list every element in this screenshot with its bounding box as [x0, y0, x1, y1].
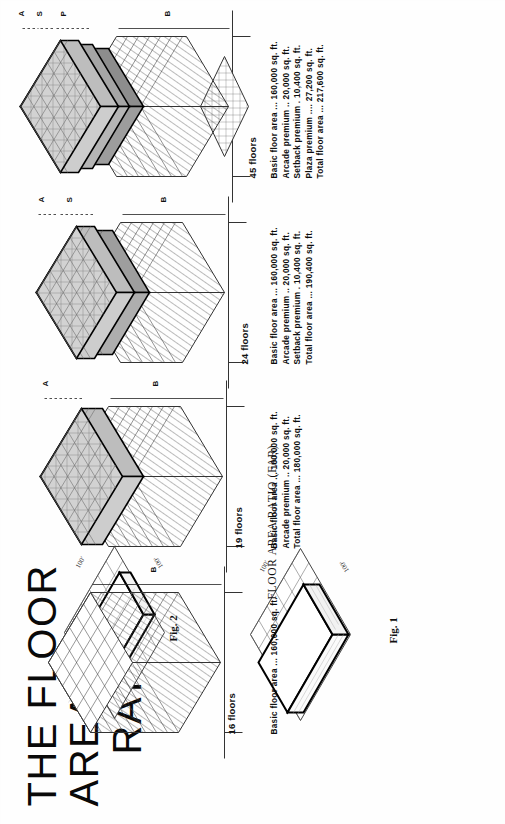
spec-dots: ....: [304, 103, 313, 113]
spec-list-16: Basic floor area ... 160,000 sq. ft.: [268, 597, 280, 734]
spec-label: Plaza premium: [304, 116, 313, 178]
spec-label: Arcade premium: [281, 479, 290, 548]
spec-label: Arcade premium: [281, 295, 290, 364]
spec-value: 180,000 sq. ft.: [292, 414, 301, 472]
spec-label: Setback premium: [292, 291, 301, 364]
building-45-drawing: [8, 6, 266, 206]
zone-tag-B-45: B: [162, 10, 171, 16]
spec-value: 160,000 sq. ft.: [269, 41, 278, 99]
spec-label: Total floor area: [315, 115, 324, 178]
spec-dots: ..: [281, 471, 290, 476]
figure-1-caption: Fig. 1: [386, 617, 398, 643]
spec-list-19: Basic floor area ... 160,000 sq. ft. Arc…: [268, 411, 303, 548]
spec-row: Total floor area ... 217,600 sq. ft.: [314, 41, 326, 178]
spec-row: Arcade premium .. 20,000 sq. ft.: [280, 227, 292, 364]
spec-dots: ..: [281, 287, 290, 292]
floors-label-24: 24 floors: [238, 323, 249, 364]
spec-list-45: Basic floor area ... 160,000 sq. ft. Arc…: [268, 41, 326, 178]
building-19-drawing: [22, 376, 262, 576]
spec-dots: ...: [304, 290, 313, 298]
spec-value: 217,600 sq. ft.: [315, 44, 324, 102]
spec-dots: .: [292, 286, 301, 289]
spec-dots: ...: [269, 287, 278, 295]
spec-row: Total floor area ... 190,400 sq. ft.: [303, 227, 315, 364]
spec-row: Setback premium . 10,400 sq. ft.: [291, 227, 303, 364]
spec-row: Basic floor area ... 160,000 sq. ft.: [268, 411, 280, 548]
spec-value: 160,000 sq. ft.: [269, 227, 278, 285]
spec-row: Basic floor area ... 160,000 sq. ft.: [268, 597, 280, 734]
spec-dots: ...: [269, 657, 278, 665]
spec-value: 160,000 sq. ft.: [269, 411, 278, 469]
spec-label: Basic floor area: [269, 482, 278, 548]
spec-dots: ..: [281, 101, 290, 106]
spec-dots: ...: [315, 104, 324, 112]
spec-label: Basic floor area: [269, 298, 278, 364]
spec-dots: .: [292, 100, 301, 103]
spec-label: Arcade premium: [281, 109, 290, 178]
building-16-drawing: [28, 562, 258, 762]
spec-value: 20,000 sq. ft.: [281, 416, 290, 469]
spec-value: 20,000 sq. ft.: [281, 232, 290, 285]
spec-row: Setback premium . 10,400 sq. ft.: [291, 41, 303, 178]
spec-label: Setback premium: [292, 105, 301, 178]
spec-value: 27,200 sq. ft.: [304, 47, 313, 100]
spec-label: Total floor area: [292, 485, 301, 548]
spec-label: Total floor area: [304, 301, 313, 364]
spec-label: Basic floor area: [269, 112, 278, 178]
spec-row: Total floor area ... 180,000 sq. ft.: [291, 411, 303, 548]
scanned-page: THE FLOOR AREA RATIO: [0, 0, 505, 824]
spec-row: Basic floor area ... 160,000 sq. ft.: [268, 41, 280, 178]
spec-row: Arcade premium .. 20,000 sq. ft.: [280, 411, 292, 548]
zone-tag-S-45: S: [34, 11, 43, 16]
zone-tag-A-45: A: [16, 10, 25, 16]
spec-value: 20,000 sq. ft.: [281, 46, 290, 99]
spec-row: Plaza premium .... 27,200 sq. ft.: [303, 41, 315, 178]
floors-label-45: 45 floors: [246, 137, 257, 178]
spec-label: Basic floor area: [269, 668, 278, 734]
floors-label-16: 16 floors: [225, 693, 236, 734]
spec-row: Basic floor area ... 160,000 sq. ft.: [268, 227, 280, 364]
spec-value: 190,400 sq. ft.: [304, 230, 313, 288]
zone-tag-P-45: P: [58, 11, 67, 16]
spec-value: 160,000 sq. ft.: [269, 597, 278, 655]
spec-row: Arcade premium .. 20,000 sq. ft.: [280, 41, 292, 178]
spec-dots: ...: [269, 101, 278, 109]
spec-value: 10,400 sq. ft.: [292, 230, 301, 283]
spec-dots: ...: [269, 471, 278, 479]
building-24-drawing: [16, 192, 264, 392]
page-frame: THE FLOOR AREA RATIO: [0, 0, 505, 824]
spec-dots: ...: [292, 474, 301, 482]
floors-label-19: 19 floors: [232, 507, 243, 548]
spec-list-24: Basic floor area ... 160,000 sq. ft. Arc…: [268, 227, 314, 364]
spec-value: 10,400 sq. ft.: [292, 44, 301, 97]
